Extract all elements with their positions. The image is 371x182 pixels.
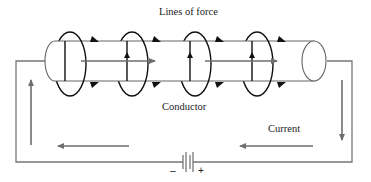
battery-icon (183, 152, 193, 172)
conductor-diagram (0, 0, 371, 182)
current-arrows-circuit (31, 80, 342, 146)
battery-positive-label: + (198, 165, 204, 176)
current-label: Current (268, 123, 300, 134)
conductor-label: Conductor (162, 101, 206, 112)
battery-negative-label: – (170, 165, 176, 176)
lines-of-force-label: Lines of force (159, 6, 218, 17)
